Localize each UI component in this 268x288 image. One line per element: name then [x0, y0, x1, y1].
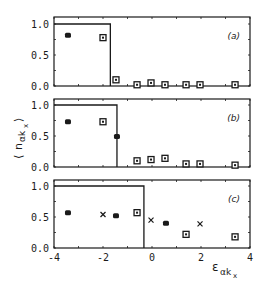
x-axis-label: ε αk x — [212, 260, 237, 280]
data-point-square-dot — [199, 163, 201, 165]
y-tick-label: 0.0 — [31, 243, 49, 254]
y-axis-label: ⟨ n αk x ⟩ — [12, 118, 30, 159]
data-point-square-dot — [185, 84, 187, 86]
data-point-square-dot — [164, 84, 166, 86]
data-point-filled — [163, 221, 169, 226]
data-point-square-dot — [185, 233, 187, 235]
panel-a: 1.00.50.0(a) — [31, 17, 250, 92]
y-label-main: n — [12, 143, 25, 150]
data-point-square-dot — [136, 84, 138, 86]
y-tick-label: 0.0 — [31, 81, 49, 92]
data-point-filled — [114, 134, 120, 139]
plot-frame — [54, 17, 250, 86]
x-label-sub: αk — [220, 267, 232, 277]
y-tick-label: 0.5 — [31, 131, 49, 142]
x-tick-label: -2 — [97, 252, 109, 263]
data-point-square-dot — [234, 84, 236, 86]
x-tick-label: 4 — [247, 252, 253, 263]
data-point-square-dot — [164, 157, 166, 159]
data-point-square-dot — [102, 121, 104, 123]
step-function-line — [54, 105, 117, 167]
data-point-cross — [101, 212, 106, 217]
figure: 1.00.50.0(a)1.00.50.0(b)1.00.50.0-4-2024… — [0, 0, 268, 288]
panel-c: 1.00.50.0-4-2024(c) — [31, 180, 253, 263]
y-tick-label: 0.5 — [31, 50, 49, 61]
step-function-line — [54, 24, 110, 86]
x-label-subsub: x — [233, 272, 237, 280]
data-point-filled — [65, 119, 71, 124]
data-point-square-dot — [136, 160, 138, 162]
y-tick-label: 1.0 — [31, 181, 49, 192]
data-point-square-dot — [234, 236, 236, 238]
y-tick-label: 0.0 — [31, 162, 49, 173]
data-point-square-dot — [234, 164, 236, 166]
y-tick-label: 0.5 — [31, 212, 49, 223]
data-point-square-dot — [150, 159, 152, 161]
panel-label: (c) — [228, 194, 240, 204]
data-point-cross — [198, 221, 203, 226]
panel-label: (a) — [227, 31, 240, 41]
data-point-square-dot — [150, 82, 152, 84]
data-point-cross — [149, 218, 154, 223]
data-point-square-dot — [115, 79, 117, 81]
panel-b: 1.00.50.0(b) — [31, 99, 250, 173]
y-tick-label: 1.0 — [31, 100, 49, 111]
x-label-main: ε — [212, 260, 219, 274]
x-tick-label: -4 — [48, 252, 60, 263]
data-point-square-dot — [102, 37, 104, 39]
x-tick-label: 2 — [198, 252, 204, 263]
data-point-square-dot — [185, 163, 187, 165]
plot-frame — [54, 180, 250, 248]
y-label-open-bracket: ⟨ — [12, 155, 25, 159]
x-tick-label: 0 — [149, 252, 155, 263]
data-point-filled — [113, 213, 119, 218]
y-label-close-bracket: ⟩ — [12, 118, 25, 122]
data-point-filled — [65, 33, 71, 38]
y-tick-label: 1.0 — [31, 19, 49, 30]
data-point-filled — [65, 210, 71, 215]
y-label-sub: αk — [17, 130, 27, 142]
data-point-square-dot — [199, 84, 201, 86]
y-label-subsub: x — [22, 124, 30, 128]
data-point-square-dot — [136, 212, 138, 214]
step-function-line — [54, 186, 144, 248]
panel-label: (b) — [227, 113, 240, 123]
